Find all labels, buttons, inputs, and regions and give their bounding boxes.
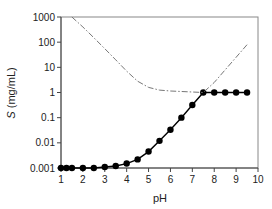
y-tick-label: 0.001 <box>30 163 55 174</box>
data-point-marker <box>58 165 64 171</box>
y-tick-label: 0.01 <box>36 137 56 148</box>
x-tick-label: 5 <box>146 174 152 185</box>
y-tick-label: 1000 <box>33 12 56 23</box>
y-tick-label: 10 <box>44 62 56 73</box>
y-tick-label: 1 <box>49 87 55 98</box>
measured-curve <box>61 93 247 169</box>
data-point-marker <box>233 89 239 95</box>
x-tick-label: 3 <box>102 174 108 185</box>
x-axis-label: pH <box>153 192 167 204</box>
data-point-marker <box>211 89 217 95</box>
data-point-marker <box>91 165 97 171</box>
y-axis-ticks: 0.0010.010.11101001000 <box>30 12 61 174</box>
data-point-marker <box>113 163 119 169</box>
data-point-marker <box>222 89 228 95</box>
x-tick-label: 2 <box>80 174 86 185</box>
x-tick-label: 8 <box>211 174 217 185</box>
data-point-marker <box>145 148 151 154</box>
x-tick-label: 10 <box>252 174 264 185</box>
data-point-marker <box>178 114 184 120</box>
data-point-marker <box>69 165 75 171</box>
x-axis-ticks: 12345678910 <box>58 168 264 185</box>
data-point-marker <box>63 165 69 171</box>
data-point-marker <box>156 138 162 144</box>
solubility-ph-chart: 0.0010.010.11101001000 12345678910 pH S … <box>0 0 272 209</box>
data-point-marker <box>244 89 250 95</box>
x-tick-label: 6 <box>168 174 174 185</box>
data-point-marker <box>134 156 140 162</box>
x-tick-label: 7 <box>190 174 196 185</box>
series-layer <box>58 17 250 171</box>
y-axis-label-unit: (mg/mL) <box>5 67 17 111</box>
x-tick-label: 1 <box>58 174 64 185</box>
y-tick-label: 0.1 <box>41 112 55 123</box>
x-tick-label: 9 <box>233 174 239 185</box>
y-tick-label: 100 <box>38 37 55 48</box>
data-point-marker <box>189 102 195 108</box>
y-axis-label: S (mg/mL) <box>5 67 17 118</box>
data-point-marker <box>80 165 86 171</box>
data-point-marker <box>102 164 108 170</box>
data-point-marker <box>123 160 129 166</box>
x-tick-label: 4 <box>124 174 130 185</box>
data-point-marker <box>167 127 173 133</box>
theoretical-curve <box>72 17 247 93</box>
